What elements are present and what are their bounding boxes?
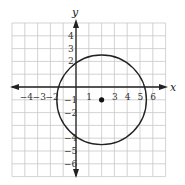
coordinate-plane-chart: xy−4−3−213456432−1−2−4−5−6 bbox=[0, 0, 185, 185]
y-tick-label: 3 bbox=[68, 44, 74, 54]
x-tick-label: −4 bbox=[20, 92, 34, 102]
y-axis-label: y bbox=[71, 6, 79, 19]
y-tick-label: −6 bbox=[64, 159, 78, 169]
x-tick-label: 5 bbox=[138, 92, 144, 102]
x-tick-label: 6 bbox=[150, 92, 156, 102]
y-tick-label: −2 bbox=[64, 108, 77, 118]
x-axis-left-arrow-icon bbox=[10, 84, 19, 90]
x-tick-label: 3 bbox=[112, 92, 118, 102]
y-tick-label: −4 bbox=[64, 133, 78, 143]
x-tick-label: 4 bbox=[125, 92, 131, 102]
x-tick-label: 1 bbox=[86, 92, 92, 102]
x-tick-label: −3 bbox=[33, 92, 47, 102]
x-axis-right-arrow-icon bbox=[159, 84, 168, 90]
y-tick-label: −5 bbox=[64, 146, 78, 156]
y-tick-label: 4 bbox=[68, 31, 74, 41]
y-axis-up-arrow-icon bbox=[73, 19, 79, 28]
y-tick-label: −1 bbox=[64, 95, 77, 105]
x-axis-label: x bbox=[170, 81, 177, 94]
center-point bbox=[99, 97, 104, 102]
